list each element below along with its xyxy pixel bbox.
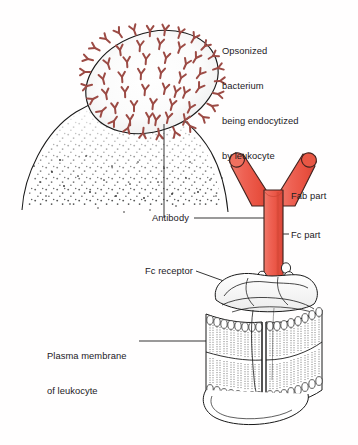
membrane-assembly	[203, 263, 322, 425]
label-antibody: Antibody	[152, 212, 189, 224]
label-opsonized-line4: by leukocyte	[222, 150, 298, 162]
label-opsonized-bacterium: Opsonized bacterium being endocytized by…	[222, 22, 298, 184]
membrane-top-face	[215, 273, 317, 312]
label-opsonized-line3: being endocytized	[222, 115, 298, 127]
membrane-bottom-loop	[203, 390, 308, 425]
label-plasma-membrane: Plasma membrane of leukocyte	[47, 327, 126, 420]
label-opsonized-line1: Opsonized	[222, 45, 298, 57]
label-plasma-line1: Plasma membrane	[47, 350, 126, 362]
lipid-bilayer-right	[266, 308, 322, 405]
label-opsonized-line2: bacterium	[222, 80, 298, 92]
label-fab-part: Fab part	[291, 190, 326, 202]
label-fc-receptor: Fc receptor	[145, 265, 193, 277]
label-fc-part: Fc part	[291, 229, 321, 241]
immunology-diagram: Opsonized bacterium being endocytized by…	[0, 0, 358, 445]
label-plasma-line2: of leukocyte	[47, 385, 126, 397]
